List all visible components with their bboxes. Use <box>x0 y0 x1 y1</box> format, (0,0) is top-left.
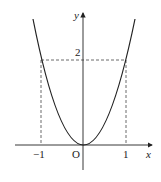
origin-label: O <box>72 148 80 160</box>
tick-label-x-neg1: −1 <box>33 148 45 160</box>
x-axis-label: x <box>145 148 151 160</box>
y-axis-label: y <box>73 9 79 21</box>
parabola-curve <box>33 19 135 145</box>
parabola-diagram: y x O −1 1 2 <box>0 0 161 182</box>
tick-label-x-1: 1 <box>123 148 129 160</box>
tick-label-y-2: 2 <box>75 46 81 58</box>
